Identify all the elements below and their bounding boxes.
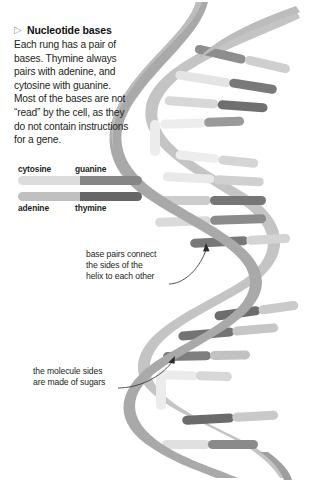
legend-bar-cytosine-guanine — [18, 176, 142, 185]
base-pair-rung — [164, 96, 268, 112]
legend-swatch-cytosine — [18, 176, 80, 185]
annotation-line: helix to each other — [86, 271, 156, 282]
legend-swatch-thymine — [80, 192, 142, 201]
legend-label-cytosine: cytosine — [18, 164, 75, 174]
base-pair-rung — [214, 300, 299, 320]
annotation-line: the molecule sides — [33, 366, 105, 377]
leader-line-base-pairs — [169, 243, 210, 284]
base-pair-rung — [175, 150, 259, 168]
base-pair-rung — [158, 370, 232, 381]
legend-label-guanine: guanine — [75, 164, 142, 174]
helix-bottom-taper — [260, 452, 292, 480]
callout-body: Each rung has a pair of bases. Thymine a… — [14, 38, 164, 147]
leader-line-molecule-sides — [118, 356, 175, 388]
base-pair-rung — [155, 214, 266, 227]
legend-swatch-adenine — [18, 192, 80, 201]
base-pair-rung — [157, 196, 266, 205]
base-pair-rung — [160, 117, 244, 129]
callout-heading: ▷ Nucleotide bases — [14, 24, 164, 36]
callout-body-line: for a gene. — [14, 133, 164, 147]
annotation-line: base pairs connect — [86, 249, 156, 260]
callout-body-line: Each rung has a pair of — [14, 38, 164, 52]
base-pair-rung — [190, 234, 290, 248]
base-pair-rungs — [155, 44, 299, 449]
annotation-line: the sides of the — [86, 260, 156, 271]
nucleotide-bases-callout: ▷ Nucleotide bases Each rung has a pair … — [14, 24, 164, 147]
annotation-line: are made of sugars — [33, 377, 105, 388]
callout-body-line: pairs with adenine, and — [14, 65, 164, 79]
triangle-right-icon: ▷ — [14, 25, 22, 35]
callout-heading-text: Nucleotide bases — [27, 24, 112, 36]
callout-body-line: “read” by the cell, as they — [14, 106, 164, 120]
callout-body-line: cytosine with guanine. — [14, 79, 164, 93]
helix-top-flare — [196, 6, 300, 62]
legend-bar-adenine-thymine — [18, 192, 142, 201]
base-pair-rung — [163, 172, 264, 187]
callout-body-line: Most of the bases are not — [14, 92, 164, 106]
callout-body-line: bases. Thymine always — [14, 52, 164, 66]
legend-label-adenine: adenine — [18, 203, 75, 213]
dna-nucleotide-bases-figure: ▷ Nucleotide bases Each rung has a pair … — [0, 0, 316, 480]
annotation-base-pairs: base pairs connect the sides of the heli… — [86, 249, 156, 283]
legend-label-thymine: thymine — [75, 203, 142, 213]
callout-body-line: do not contain instructions — [14, 120, 164, 134]
annotation-molecule-sides: the molecule sides are made of sugars — [33, 366, 105, 388]
base-pair-legend: cytosine guanine adenine thymine — [18, 164, 142, 213]
legend-row-cytosine-guanine: cytosine guanine — [18, 164, 142, 185]
base-pair-rung — [194, 44, 291, 74]
base-pair-rung — [175, 70, 278, 94]
base-pair-rung — [163, 350, 250, 361]
base-pair-rung — [178, 323, 279, 341]
legend-row-adenine-thymine: adenine thymine — [18, 192, 142, 213]
base-pair-rung — [182, 411, 278, 425]
legend-labels-top: cytosine guanine — [18, 164, 142, 174]
legend-swatch-guanine — [80, 176, 142, 185]
base-pair-rung — [162, 440, 258, 449]
legend-labels-bottom: adenine thymine — [18, 203, 142, 213]
